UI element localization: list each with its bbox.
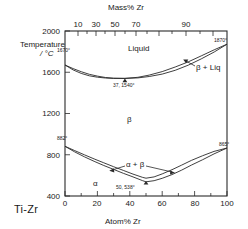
phase-label-beta: β: [127, 115, 132, 124]
y-axis-title-line2: / °C: [40, 50, 53, 58]
annotation-882: 882°: [57, 135, 67, 141]
top-tick-label-30: 30: [87, 20, 105, 29]
bottom-axis-title: Atom% Zr: [105, 218, 141, 226]
bottom-tick-label-0: 0: [56, 199, 74, 208]
figure-caption: Ti-Zr: [14, 204, 38, 215]
annotation-eutectoid: 50, 538°: [116, 184, 135, 190]
y-tick-label-1200: 1200: [26, 109, 60, 118]
phase-label-liquid: Liquid: [128, 44, 149, 53]
annotation-865: 865°: [219, 141, 229, 147]
annotation-liquidus-minimum: 37, 1540°: [113, 82, 134, 88]
phase-diagram-figure: Mass% Zr Atom% Zr Temperature / °C Ti-Zr…: [0, 0, 248, 229]
top-axis-title: Mass% Zr: [108, 4, 144, 12]
top-tick-label-50: 50: [106, 20, 124, 29]
bottom-tick-label-40: 40: [121, 199, 139, 208]
bottom-tick-label-60: 60: [153, 199, 171, 208]
bottom-tick-label-20: 20: [88, 199, 106, 208]
top-tick-label-90: 90: [177, 20, 195, 29]
top-tick-label-70: 70: [127, 20, 145, 29]
y-tick-label-1600: 1600: [26, 68, 60, 77]
top-tick-label-10: 10: [69, 20, 87, 29]
plot-frame: [65, 31, 227, 196]
y-tick-label-800: 800: [26, 151, 60, 160]
bottom-tick-label-100: 100: [218, 199, 236, 208]
annotation-1870: 1870°: [214, 37, 227, 43]
y-tick-label-2000: 2000: [26, 27, 60, 36]
annotation-1670: 1670°: [57, 47, 70, 53]
y-tick-label-400: 400: [26, 192, 60, 201]
bottom-tick-label-80: 80: [186, 199, 204, 208]
phase-label-beta-plus-liquid: β + Liq: [196, 63, 220, 72]
phase-label-alpha: α: [93, 179, 98, 188]
phase-label-alpha-plus-beta: α + β: [126, 160, 144, 169]
